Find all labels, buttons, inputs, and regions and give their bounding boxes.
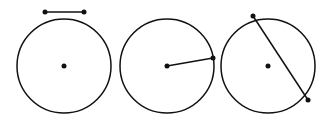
panel-segment [17, 10, 111, 114]
center-dot [62, 64, 67, 69]
center-dot [266, 64, 271, 69]
panel-radius [120, 19, 216, 113]
endpoint-dot [82, 10, 87, 15]
endpoint-dot [306, 98, 311, 103]
endpoint-dot [251, 14, 256, 19]
chord-line [253, 16, 308, 100]
endpoint-dot [43, 10, 48, 15]
panel-chord [221, 14, 315, 114]
circle-diagram [0, 0, 329, 122]
endpoint-dot [211, 56, 216, 61]
radius-line [167, 58, 213, 66]
